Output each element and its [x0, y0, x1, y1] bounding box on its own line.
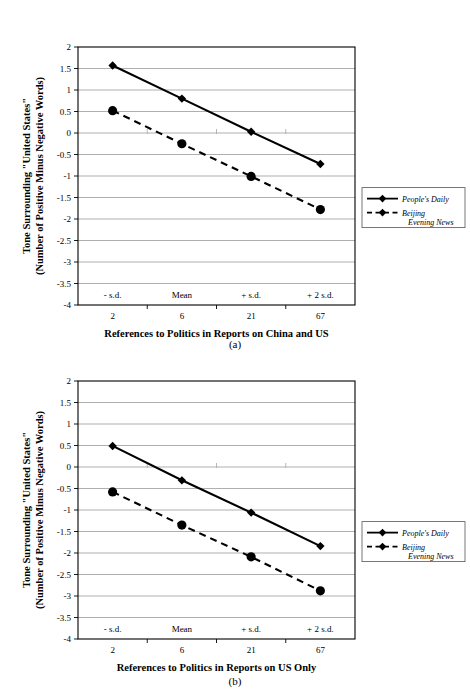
- y-tick-label: -2: [64, 548, 72, 558]
- x-category-label: - s.d.: [104, 624, 122, 634]
- x-category-label: - s.d.: [104, 290, 122, 300]
- y-tick-label: 2: [67, 376, 72, 386]
- y-tick-label: 1: [67, 85, 72, 95]
- x-value-label: 21: [247, 311, 256, 321]
- panel-caption-b: (b): [0, 675, 470, 687]
- data-point: [247, 552, 256, 561]
- y-tick-label: -0.5: [57, 150, 72, 160]
- chart-svg-b: 21.510.50-0.5-1-1.5-2-2.5-3-3.5-4- s.d.M…: [0, 352, 470, 697]
- data-point: [108, 106, 117, 115]
- y-tick-label: 2: [67, 42, 72, 52]
- data-point: [316, 205, 325, 214]
- y-tick-label: -1.5: [57, 193, 72, 203]
- data-point: [316, 586, 325, 595]
- y-tick-label: 0: [67, 462, 72, 472]
- y-axis-title-line1: Tone Surrounding "United States": [21, 98, 32, 254]
- x-value-label: 67: [316, 645, 326, 655]
- y-tick-label: -3.5: [57, 279, 72, 289]
- y-tick-label: 0.5: [60, 441, 72, 451]
- y-tick-label: 0.5: [60, 107, 72, 117]
- data-point: [108, 487, 117, 496]
- data-point: [177, 520, 186, 529]
- x-category-label: + 2 s.d.: [307, 290, 334, 300]
- x-axis-title: References to Politics in Reports on US …: [117, 662, 317, 673]
- data-point: [178, 94, 186, 102]
- data-point: [247, 172, 256, 181]
- legend-label-2: Beijing: [402, 543, 425, 552]
- y-tick-label: -3.5: [57, 613, 72, 623]
- y-tick-label: -2.5: [57, 236, 72, 246]
- legend-label-2: Beijing: [402, 209, 425, 218]
- x-value-label: 67: [316, 311, 326, 321]
- y-tick-label: 1: [67, 419, 72, 429]
- legend-label-2b: Evening News: [407, 552, 454, 561]
- x-value-label: 21: [247, 645, 256, 655]
- x-category-label: + 2 s.d.: [307, 624, 334, 634]
- y-tick-label: 1.5: [60, 398, 72, 408]
- y-tick-label: -4: [64, 300, 72, 310]
- y-tick-label: -1: [64, 171, 72, 181]
- chart-svg-a: 21.510.50-0.5-1-1.5-2-2.5-3-3.5-4- s.d.M…: [0, 0, 470, 360]
- y-tick-label: 1.5: [60, 64, 72, 74]
- figure-root: 21.510.50-0.5-1-1.5-2-2.5-3-3.5-4- s.d.M…: [0, 0, 470, 697]
- y-tick-label: -4: [64, 634, 72, 644]
- series-line-2: [113, 492, 321, 591]
- x-value-label: 2: [110, 311, 115, 321]
- y-tick-label: 0: [67, 128, 72, 138]
- chart-panel-a: 21.510.50-0.5-1-1.5-2-2.5-3-3.5-4- s.d.M…: [0, 0, 470, 360]
- data-point: [108, 442, 116, 450]
- y-tick-label: -3: [64, 591, 72, 601]
- legend-label-2b: Evening News: [407, 218, 454, 227]
- data-point: [177, 139, 186, 148]
- y-tick-label: -0.5: [57, 484, 72, 494]
- x-category-label: Mean: [172, 624, 193, 634]
- y-axis-title-line2: (Number of Positive Minus Negative Words…: [34, 410, 46, 609]
- x-value-label: 6: [180, 645, 185, 655]
- x-value-label: 6: [180, 311, 185, 321]
- x-category-label: + s.d.: [241, 290, 261, 300]
- y-tick-label: -1.5: [57, 527, 72, 537]
- series-line-2: [113, 111, 321, 210]
- x-value-label: 2: [110, 645, 115, 655]
- data-point: [316, 542, 324, 550]
- legend-label-1: People's Daily: [401, 529, 449, 538]
- panel-caption-a: (a): [0, 338, 470, 350]
- chart-panel-b: 21.510.50-0.5-1-1.5-2-2.5-3-3.5-4- s.d.M…: [0, 352, 470, 697]
- x-category-label: Mean: [172, 290, 193, 300]
- data-point: [247, 128, 255, 136]
- data-point: [316, 160, 324, 168]
- legend-label-1: People's Daily: [401, 195, 449, 204]
- y-axis-title-line1: Tone Surrounding "United States": [21, 432, 32, 588]
- x-category-label: + s.d.: [241, 624, 261, 634]
- y-tick-label: -3: [64, 257, 72, 267]
- data-point: [178, 476, 186, 484]
- series-line-1: [113, 66, 321, 165]
- y-axis-title-line2: (Number of Positive Minus Negative Words…: [34, 76, 46, 275]
- y-tick-label: -2: [64, 214, 72, 224]
- y-tick-label: -1: [64, 505, 72, 515]
- y-tick-label: -2.5: [57, 570, 72, 580]
